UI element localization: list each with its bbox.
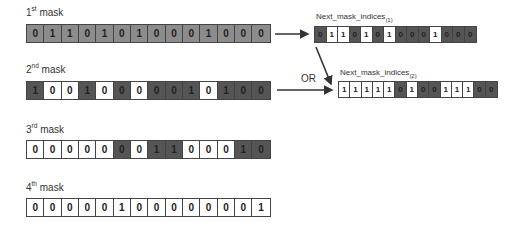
arrows-overlay xyxy=(0,0,523,236)
arrow-indices1-to-indices2-icon xyxy=(316,47,331,84)
